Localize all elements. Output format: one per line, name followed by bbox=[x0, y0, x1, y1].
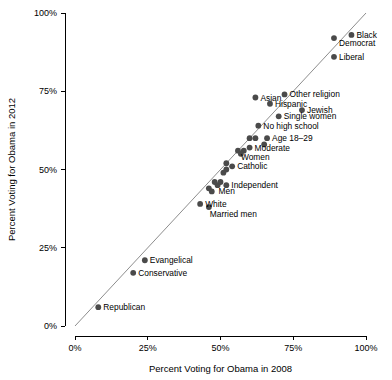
data-point bbox=[221, 170, 227, 176]
y-tick-label: 75% bbox=[39, 86, 57, 96]
data-point bbox=[331, 54, 337, 60]
data-point bbox=[218, 179, 224, 185]
data-point bbox=[255, 123, 261, 129]
x-tick-label: 50% bbox=[211, 343, 229, 353]
data-point bbox=[223, 160, 229, 166]
data-point bbox=[229, 163, 235, 169]
data-point bbox=[247, 135, 253, 141]
data-point-label: Independent bbox=[231, 180, 278, 190]
x-tick-label: 0% bbox=[68, 343, 81, 353]
identity-reference-line bbox=[75, 13, 366, 326]
data-point bbox=[130, 270, 136, 276]
reference-line-group bbox=[75, 13, 366, 326]
data-point-label: Evangelical bbox=[150, 255, 193, 265]
data-point bbox=[142, 257, 148, 263]
axes-group: 0%25%50%75%100%0%25%50%75%100% bbox=[34, 8, 378, 353]
data-point bbox=[276, 113, 282, 119]
data-labels-group: BlackDemocratLiberalOther religionAsianH… bbox=[103, 30, 377, 312]
data-point-label: Conservative bbox=[138, 268, 187, 278]
data-point-label: Catholic bbox=[237, 161, 267, 171]
plot-canvas: 0%25%50%75%100%0%25%50%75%100% BlackDemo… bbox=[0, 0, 392, 380]
data-point bbox=[253, 135, 259, 141]
data-point bbox=[331, 35, 337, 41]
data-point bbox=[282, 91, 288, 97]
data-point bbox=[95, 304, 101, 310]
data-point bbox=[212, 179, 218, 185]
data-point-label: White bbox=[205, 199, 227, 209]
y-tick-label: 0% bbox=[44, 321, 57, 331]
x-axis-title: Percent Voting for Obama in 2008 bbox=[149, 363, 292, 374]
x-tick-label: 100% bbox=[354, 343, 377, 353]
data-point-label: No high school bbox=[263, 121, 319, 131]
data-points-group bbox=[95, 32, 354, 310]
data-point bbox=[197, 201, 203, 207]
data-point-label: Hispanic bbox=[275, 99, 307, 109]
x-tick-label: 75% bbox=[284, 343, 302, 353]
y-axis-title: Percent Voting for Obama in 2012 bbox=[6, 98, 17, 241]
data-point bbox=[253, 95, 259, 101]
data-point bbox=[349, 32, 355, 38]
data-point bbox=[247, 145, 253, 151]
data-point-label: Republican bbox=[103, 302, 145, 312]
data-point-label: Women bbox=[241, 152, 270, 162]
scatter-plot-figure: 0%25%50%75%100%0%25%50%75%100% BlackDemo… bbox=[0, 0, 392, 380]
data-point bbox=[264, 135, 270, 141]
y-tick-label: 100% bbox=[34, 8, 57, 18]
y-tick-label: 50% bbox=[39, 165, 57, 175]
y-tick-label: 25% bbox=[39, 243, 57, 253]
data-point-label: Married men bbox=[210, 209, 257, 219]
data-point-label: Liberal bbox=[339, 52, 364, 62]
data-point-label: Democrat bbox=[339, 38, 376, 48]
data-point bbox=[209, 189, 215, 195]
x-tick-label: 25% bbox=[139, 343, 157, 353]
data-point-label: Men bbox=[219, 186, 236, 196]
